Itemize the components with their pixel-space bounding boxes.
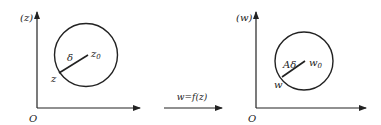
z-plane-origin-label: O	[29, 113, 37, 124]
z-neighborhood-circle	[55, 24, 118, 87]
w-plane: (w) O Aδ w0 w	[236, 12, 366, 124]
z-radius-label: δ	[67, 52, 73, 63]
w-center-label: w0	[309, 57, 323, 70]
w-radius-label: Aδ	[282, 59, 296, 70]
w-point-label: w	[274, 79, 283, 90]
z-radius-line	[59, 55, 88, 73]
w-plane-axis-label: (w)	[236, 12, 252, 23]
conformal-mapping-diagram: (z) O δ z0 z w=f(z) (w) O Aδ w0 w	[0, 0, 381, 125]
z-plane-axis-label: (z)	[20, 12, 33, 23]
mapping-label: w=f(z)	[177, 92, 208, 102]
w-plane-origin-label: O	[248, 113, 256, 124]
z-center-label: z0	[90, 48, 101, 61]
z-point-label: z	[50, 73, 57, 84]
z-plane: (z) O δ z0 z	[20, 12, 140, 124]
mapping-arrow: w=f(z)	[164, 92, 222, 108]
